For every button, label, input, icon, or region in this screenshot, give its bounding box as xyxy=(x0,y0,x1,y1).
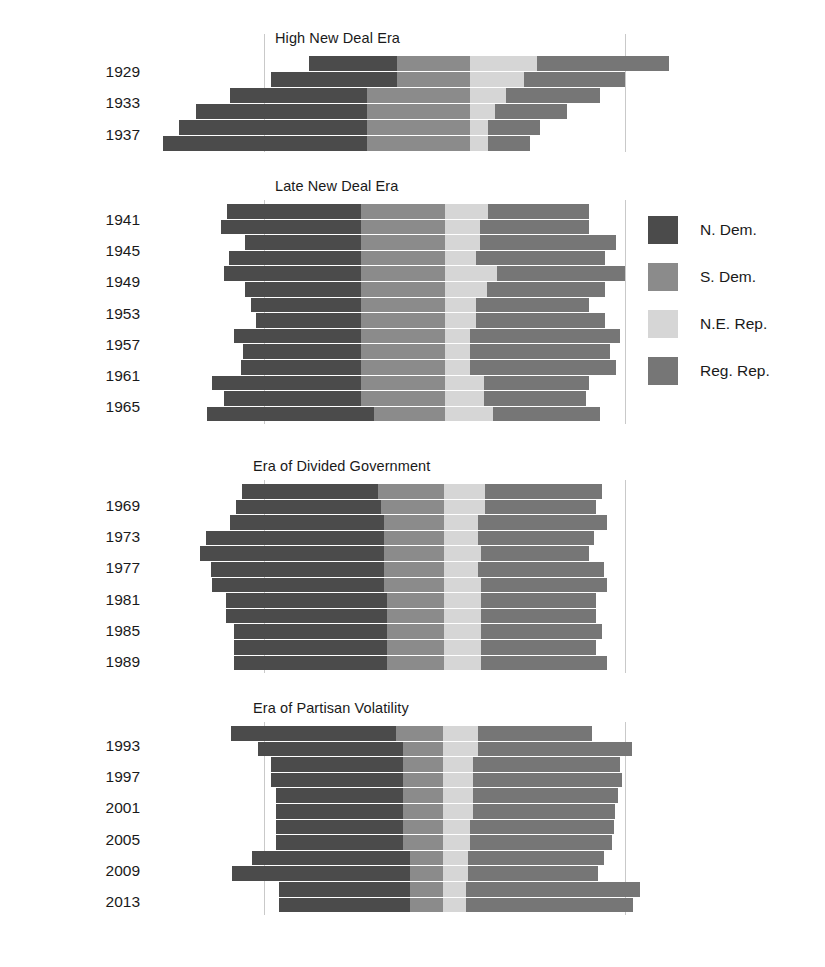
bar-row xyxy=(150,484,670,499)
bar-segment-reg_rep xyxy=(480,220,589,235)
bar-segment-s_dem xyxy=(387,624,444,639)
bar-segment-ne_rep xyxy=(445,407,493,422)
bar-segment-reg_rep xyxy=(488,204,589,219)
bar-row xyxy=(150,104,670,119)
bar-segment-ne_rep xyxy=(445,344,470,359)
bar-segment-n_dem xyxy=(226,609,387,624)
bar-segment-ne_rep xyxy=(443,866,468,881)
legend-item-ne_rep[interactable]: N.E. Rep. xyxy=(648,310,818,357)
bar-row xyxy=(150,851,670,866)
bar-row xyxy=(150,866,670,881)
bar-segment-ne_rep xyxy=(470,72,524,87)
bar-segment-s_dem xyxy=(397,72,470,87)
year-label: 1929 xyxy=(22,64,140,80)
legend-label: Reg. Rep. xyxy=(700,361,770,381)
bar-segment-reg_rep xyxy=(466,898,633,913)
plot-area xyxy=(150,484,670,671)
bar-segment-s_dem xyxy=(397,56,470,71)
bar-row xyxy=(150,72,670,87)
bar-segment-n_dem xyxy=(236,500,381,515)
bar-segment-reg_rep xyxy=(470,835,612,850)
year-label: 1969 xyxy=(22,498,140,514)
bar-segment-reg_rep xyxy=(473,757,620,772)
bar-segment-n_dem xyxy=(279,882,410,897)
bar-segment-s_dem xyxy=(361,329,445,344)
bar-segment-n_dem xyxy=(276,820,403,835)
year-label: 1997 xyxy=(22,769,140,785)
bar-segment-s_dem xyxy=(361,220,445,235)
bar-segment-n_dem xyxy=(227,204,361,219)
bar-row xyxy=(150,282,670,297)
bar-segment-ne_rep xyxy=(444,562,478,577)
bar-segment-ne_rep xyxy=(444,515,478,530)
bar-segment-n_dem xyxy=(226,593,387,608)
bar-row xyxy=(150,757,670,772)
bar-segment-n_dem xyxy=(252,851,410,866)
bar-segment-n_dem xyxy=(242,484,378,499)
bar-segment-ne_rep xyxy=(445,360,470,375)
bar-row xyxy=(150,640,670,655)
bar-segment-n_dem xyxy=(279,898,410,913)
panel-title: Era of Divided Government xyxy=(253,458,430,474)
bar-segment-n_dem xyxy=(207,407,374,422)
legend-item-s_dem[interactable]: S. Dem. xyxy=(648,263,818,310)
bar-segment-reg_rep xyxy=(468,851,604,866)
bar-segment-n_dem xyxy=(245,282,361,297)
bar-segment-s_dem xyxy=(361,313,445,328)
bar-segment-ne_rep xyxy=(444,656,481,671)
bar-segment-ne_rep xyxy=(444,578,481,593)
bar-segment-ne_rep xyxy=(445,298,476,313)
bar-segment-reg_rep xyxy=(473,788,618,803)
bar-segment-s_dem xyxy=(361,266,445,281)
bar-segment-n_dem xyxy=(271,72,397,87)
bar-segment-reg_rep xyxy=(484,391,586,406)
bar-segment-s_dem xyxy=(361,344,445,359)
bar-segment-s_dem xyxy=(361,251,445,266)
legend-swatch-icon xyxy=(648,216,678,244)
bar-segment-reg_rep xyxy=(481,578,607,593)
bar-segment-reg_rep xyxy=(506,88,600,103)
bar-segment-reg_rep xyxy=(470,344,610,359)
bar-row xyxy=(150,624,670,639)
bar-row xyxy=(150,562,670,577)
bar-segment-reg_rep xyxy=(497,266,625,281)
bar-segment-n_dem xyxy=(271,773,403,788)
bar-segment-n_dem xyxy=(276,804,403,819)
bar-segment-ne_rep xyxy=(445,282,487,297)
panel-title: Late New Deal Era xyxy=(275,178,398,194)
bar-segment-s_dem xyxy=(367,88,470,103)
bar-segment-reg_rep xyxy=(466,882,640,897)
bar-segment-n_dem xyxy=(232,866,410,881)
bar-row xyxy=(150,313,670,328)
bar-row xyxy=(150,882,670,897)
year-label: 1933 xyxy=(22,95,140,111)
bar-segment-ne_rep xyxy=(470,88,506,103)
year-label: 2013 xyxy=(22,894,140,910)
bar-row xyxy=(150,120,670,135)
bar-segment-ne_rep xyxy=(445,329,470,344)
bar-row xyxy=(150,742,670,757)
bar-segment-reg_rep xyxy=(484,376,589,391)
bar-segment-ne_rep xyxy=(443,820,470,835)
bar-segment-reg_rep xyxy=(481,546,589,561)
legend-label: S. Dem. xyxy=(700,267,756,287)
bar-row xyxy=(150,204,670,219)
bar-row xyxy=(150,820,670,835)
bar-segment-ne_rep xyxy=(445,220,480,235)
year-label: 2009 xyxy=(22,863,140,879)
bar-segment-n_dem xyxy=(271,757,403,772)
plot-area xyxy=(150,56,670,152)
bar-segment-reg_rep xyxy=(485,500,596,515)
bar-segment-ne_rep xyxy=(444,640,481,655)
legend-item-n_dem[interactable]: N. Dem. xyxy=(648,216,818,263)
bar-segment-ne_rep xyxy=(444,609,481,624)
bar-segment-ne_rep xyxy=(445,251,476,266)
bar-row xyxy=(150,376,670,391)
bar-segment-s_dem xyxy=(410,851,443,866)
legend-item-reg_rep[interactable]: Reg. Rep. xyxy=(648,357,818,404)
bar-segment-ne_rep xyxy=(445,313,476,328)
bar-segment-ne_rep xyxy=(443,757,473,772)
bar-segment-s_dem xyxy=(403,773,443,788)
bar-segment-s_dem xyxy=(384,546,444,561)
bar-segment-ne_rep xyxy=(445,391,484,406)
